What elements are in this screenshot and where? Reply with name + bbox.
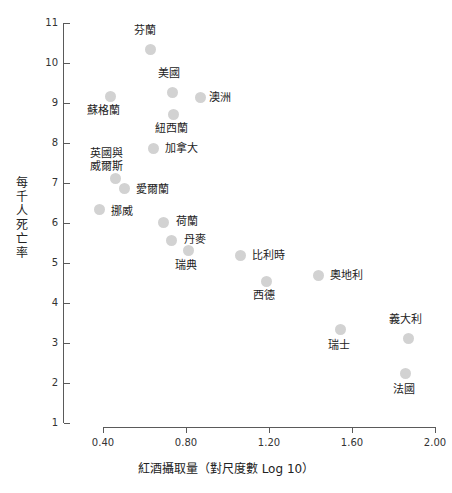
y-axis-title-char: 率 bbox=[14, 246, 30, 260]
data-point-marker bbox=[110, 173, 121, 184]
y-axis-tick-mark bbox=[64, 423, 70, 424]
data-point-label: 荷蘭 bbox=[176, 215, 198, 228]
data-point-label: 愛爾蘭 bbox=[136, 183, 169, 196]
data-point-label: 加拿大 bbox=[165, 142, 198, 155]
data-point-marker bbox=[119, 183, 130, 194]
y-axis-tick-mark bbox=[64, 183, 70, 184]
y-axis-tick-label: 11 bbox=[38, 18, 58, 28]
y-axis-tick-label: 2 bbox=[38, 378, 58, 388]
data-point-label: 瑞典 bbox=[175, 259, 197, 272]
data-point-marker bbox=[148, 143, 159, 154]
data-point-marker bbox=[167, 87, 178, 98]
y-axis-title-char: 每 bbox=[14, 176, 30, 190]
y-axis-tick-label: 8 bbox=[38, 138, 58, 148]
x-axis-tick-mark bbox=[352, 427, 353, 433]
data-point-marker bbox=[168, 109, 179, 120]
y-axis-tick-mark bbox=[64, 303, 70, 304]
data-point-marker bbox=[158, 217, 169, 228]
x-axis-tick-mark bbox=[435, 427, 436, 433]
y-axis-title-char: 人 bbox=[14, 204, 30, 218]
data-point-marker bbox=[195, 92, 206, 103]
y-axis-tick-label: 6 bbox=[38, 218, 58, 228]
data-point-label: 挪威 bbox=[111, 205, 133, 218]
y-axis-tick-mark bbox=[64, 263, 70, 264]
data-point-marker bbox=[183, 245, 194, 256]
y-axis-tick-label: 9 bbox=[38, 98, 58, 108]
y-axis-tick-mark bbox=[64, 223, 70, 224]
data-point-label: 義大利 bbox=[389, 313, 422, 326]
x-axis-tick-mark bbox=[186, 427, 187, 433]
data-point-label: 奧地利 bbox=[330, 269, 363, 282]
data-point-label: 澳洲 bbox=[209, 91, 231, 104]
x-axis-tick-mark bbox=[103, 427, 104, 433]
y-axis-tick-mark bbox=[64, 143, 70, 144]
y-axis-title: 每千人死亡率 bbox=[14, 176, 30, 260]
data-point-marker bbox=[400, 368, 411, 379]
data-point-label: 英國與 威爾斯 bbox=[90, 147, 123, 173]
data-point-marker bbox=[261, 276, 272, 287]
wine-mortality-scatter-chart: 1110987654321 0.400.801.201.602.00 芬蘭美國澳… bbox=[0, 0, 452, 493]
x-axis-tick-label: 0.40 bbox=[83, 437, 123, 449]
data-point-label: 比利時 bbox=[252, 249, 285, 262]
y-axis-tick-mark bbox=[64, 63, 70, 64]
data-point-label: 法國 bbox=[393, 383, 415, 396]
data-point-label: 芬蘭 bbox=[134, 24, 156, 37]
data-point-marker bbox=[403, 333, 414, 344]
y-axis-tick-label: 7 bbox=[38, 178, 58, 188]
x-axis-tick-mark bbox=[269, 427, 270, 433]
plot-area: 1110987654321 0.400.801.201.602.00 芬蘭美國澳… bbox=[0, 0, 452, 493]
x-axis-tick-label: 1.60 bbox=[332, 437, 372, 449]
data-point-label: 西德 bbox=[253, 289, 275, 302]
y-axis-tick-label: 4 bbox=[38, 298, 58, 308]
y-axis-tick-mark bbox=[64, 383, 70, 384]
data-point-marker bbox=[313, 270, 324, 281]
data-point-label: 紐西蘭 bbox=[155, 122, 188, 135]
data-point-marker bbox=[94, 204, 105, 215]
y-axis-title-char: 死 bbox=[14, 218, 30, 232]
y-axis-tick-label: 10 bbox=[38, 58, 58, 68]
data-point-label: 瑞士 bbox=[328, 339, 350, 352]
y-axis-title-char: 千 bbox=[14, 190, 30, 204]
data-point-label: 美國 bbox=[158, 67, 180, 80]
data-point-marker bbox=[105, 91, 116, 102]
x-axis-title: 紅酒攝取量（對尺度數 Log 10） bbox=[0, 462, 452, 476]
data-point-marker bbox=[335, 324, 346, 335]
y-axis-tick-label: 5 bbox=[38, 258, 58, 268]
data-point-marker bbox=[145, 44, 156, 55]
y-axis-tick-label: 1 bbox=[38, 418, 58, 428]
data-point-label: 蘇格蘭 bbox=[87, 104, 120, 117]
data-point-marker bbox=[166, 235, 177, 246]
y-axis-title-char: 亡 bbox=[14, 232, 30, 246]
y-axis-tick-mark bbox=[64, 103, 70, 104]
y-axis-tick-label: 3 bbox=[38, 338, 58, 348]
x-axis-tick-label: 2.00 bbox=[415, 437, 452, 449]
data-point-marker bbox=[235, 250, 246, 261]
x-axis-tick-label: 1.20 bbox=[249, 437, 289, 449]
x-axis-tick-label: 0.80 bbox=[166, 437, 206, 449]
y-axis-tick-mark bbox=[64, 23, 70, 24]
y-axis-tick-mark bbox=[64, 343, 70, 344]
